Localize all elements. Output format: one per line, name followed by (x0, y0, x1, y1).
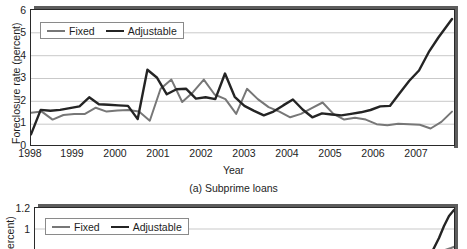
y-tick-1: 1 (12, 117, 26, 127)
x-tick-1999: 1999 (52, 148, 92, 159)
y-tick-4: 4 (12, 50, 26, 60)
legend-swatch-adjustable-icon (106, 30, 124, 32)
x-tick-1998: 1998 (10, 148, 50, 159)
legend-swatch-fixed-icon (47, 30, 65, 32)
y-tick-1p2: 1.2 (10, 203, 30, 213)
x-tick-2001: 2001 (138, 148, 178, 159)
x-tick-2006: 2006 (353, 148, 393, 159)
legend-item-adjustable-bottom: Adjustable (111, 221, 182, 233)
y-tick-3: 3 (12, 72, 26, 82)
y-tick-2: 2 (12, 95, 26, 105)
y-tick-6: 6 (12, 5, 26, 15)
gridlines (31, 33, 455, 124)
legend-swatch-adjustable-bottom-icon (111, 226, 129, 228)
panel-caption-subprime: (a) Subprime loans (0, 182, 467, 194)
legend-label-adjustable-bottom: Adjustable (133, 221, 182, 233)
y-tick-5: 5 (12, 27, 26, 37)
legend-item-adjustable: Adjustable (106, 25, 177, 37)
legend-swatch-fixed-bottom-icon (52, 226, 70, 228)
x-tick-2005: 2005 (310, 148, 350, 159)
x-tick-2002: 2002 (181, 148, 221, 159)
y-tick-1p0: 1 (10, 224, 30, 234)
legend-label-fixed: Fixed (69, 25, 95, 37)
x-tick-2004: 2004 (267, 148, 307, 159)
legend-item-fixed-bottom: Fixed (52, 221, 100, 233)
legend-label-adjustable: Adjustable (128, 25, 177, 37)
legend-item-fixed: Fixed (47, 25, 95, 37)
x-tick-2007: 2007 (396, 148, 436, 159)
legend-subprime: Fixed Adjustable (40, 22, 184, 39)
x-tick-2000: 2000 (95, 148, 135, 159)
legend-label-fixed-bottom: Fixed (74, 221, 100, 233)
x-axis-title: Year (0, 164, 467, 176)
legend-prime: Fixed Adjustable (45, 218, 189, 235)
x-tick-2003: 2003 (224, 148, 264, 159)
